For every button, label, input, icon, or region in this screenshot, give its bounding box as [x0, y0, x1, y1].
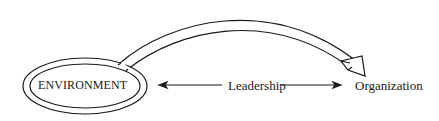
diagram-graphics — [0, 0, 439, 121]
curved-arrow-outer-line — [120, 20, 355, 63]
diagram-canvas: ENVIRONMENT Leadership Organization — [0, 0, 439, 121]
leadership-label: Leadership — [228, 79, 286, 92]
curved-arrow — [120, 20, 365, 76]
organization-label: Organization — [355, 79, 423, 92]
environment-label: ENVIRONMENT — [38, 79, 127, 91]
